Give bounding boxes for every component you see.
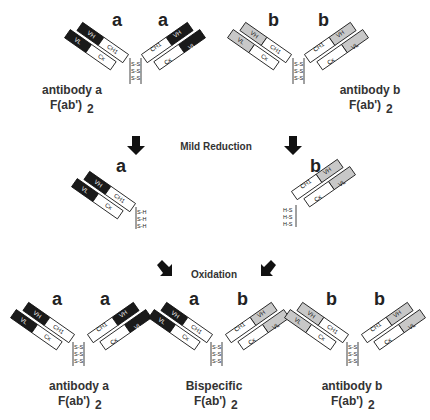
chain-letter: a: [112, 10, 123, 30]
chain-letter: b: [268, 10, 279, 30]
chain-letter: a: [189, 289, 200, 309]
chain-letter: b: [326, 289, 337, 309]
svg-text:S-S: S-S: [294, 61, 304, 67]
antibody-b-fab2-top: VH CH1 VL Cκ VH CH1 VL Cκ S-S S-S S-S b …: [228, 10, 401, 116]
svg-text:S-S: S-S: [294, 75, 304, 81]
svg-text:F(ab'): F(ab'): [194, 394, 226, 408]
svg-text:F(ab'): F(ab'): [331, 394, 363, 408]
fab2-label: F(ab'): [50, 98, 82, 112]
svg-text:S-S: S-S: [212, 358, 222, 364]
diagonal-arrow-left: [157, 260, 172, 276]
svg-text:S-H: S-H: [137, 216, 147, 222]
bispecific-fab2: VH CH1 VL Cκ VH CH1 VL Cκ S-S S-S S-S a …: [149, 289, 290, 412]
antibody-a-fab2-top: VH CH1 VL Cκ VH CH1 VL Cκ S-S S-S S-S a …: [42, 10, 205, 116]
svg-text:S-S: S-S: [348, 351, 358, 357]
chain-letter: b: [374, 289, 385, 309]
fab2-label: F(ab'): [349, 98, 381, 112]
svg-text:S-S: S-S: [74, 344, 84, 350]
svg-text:2: 2: [368, 398, 375, 412]
svg-text:S-S: S-S: [131, 61, 141, 67]
svg-text:2: 2: [95, 398, 102, 412]
antibody-label: antibody a: [49, 379, 109, 393]
chain-letter: a: [116, 156, 127, 176]
svg-text:S-H: S-H: [137, 223, 147, 229]
hinge-disulfides: S-S S-S S-S: [347, 342, 358, 366]
svg-text:S-S: S-S: [294, 68, 304, 74]
svg-text:2: 2: [87, 102, 94, 116]
hinge-disulfides: S-S S-S S-S: [211, 342, 222, 366]
down-arrow-right: [284, 136, 302, 155]
bispecific-label: Bispecific: [186, 379, 243, 393]
svg-text:S-S: S-S: [74, 358, 84, 364]
chain-letter: b: [318, 10, 329, 30]
svg-text:H-S: H-S: [283, 214, 293, 220]
hinge-disulfides: S-S S-S S-S: [73, 342, 84, 366]
antibody-label: antibody b: [322, 379, 383, 393]
mild-reduction-label: Mild Reduction: [180, 141, 252, 152]
svg-text:S-H: S-H: [137, 209, 147, 215]
hinge-disulfides: S-S S-S S-S: [130, 58, 141, 84]
svg-text:S-S: S-S: [348, 344, 358, 350]
diagonal-arrow-right: [261, 260, 276, 276]
hinge-disulfides: S-S S-S S-S: [293, 58, 304, 84]
chain-letter: a: [100, 289, 111, 309]
bispecific-fab-diagram: VH CH1 VL Cκ VH CH1 VL Cκ S-S S-S S-S a …: [0, 0, 430, 420]
antibody-b-fab2-bottom: VH CH1 VL Cκ VH CH1 VL Cκ S-S S-S S-S b …: [285, 289, 426, 412]
fab-prime-a-reduced: VH CH1 VL Cκ S-H S-H S-H a: [72, 156, 147, 229]
fab-prime-b-reduced: VH CH1 VL Cκ H-S H-S H-S b: [283, 156, 355, 227]
antibody-a-fab2-bottom: VH CH1 VL Cκ VH CH1 VL Cκ S-S S-S S-S a …: [11, 289, 152, 412]
svg-text:S-S: S-S: [131, 75, 141, 81]
chain-letter: b: [237, 289, 248, 309]
svg-text:S-S: S-S: [212, 351, 222, 357]
chain-letter: b: [310, 156, 321, 176]
svg-text:H-S: H-S: [283, 207, 293, 213]
svg-text:S-S: S-S: [348, 358, 358, 364]
svg-text:S-S: S-S: [131, 68, 141, 74]
down-arrow-left: [127, 136, 145, 155]
chain-letter: a: [52, 289, 63, 309]
chain-letter: a: [158, 10, 169, 30]
antibody-label: antibody b: [340, 83, 401, 97]
svg-text:S-S: S-S: [74, 351, 84, 357]
svg-text:F(ab'): F(ab'): [58, 394, 90, 408]
fab-arm-left: VH CH1 VL Cκ: [228, 19, 292, 73]
svg-text:2: 2: [231, 398, 238, 412]
svg-text:2: 2: [386, 102, 393, 116]
oxidation-label: Oxidation: [191, 269, 237, 280]
antibody-label: antibody a: [42, 83, 102, 97]
svg-text:S-S: S-S: [212, 344, 222, 350]
svg-text:H-S: H-S: [283, 221, 293, 227]
